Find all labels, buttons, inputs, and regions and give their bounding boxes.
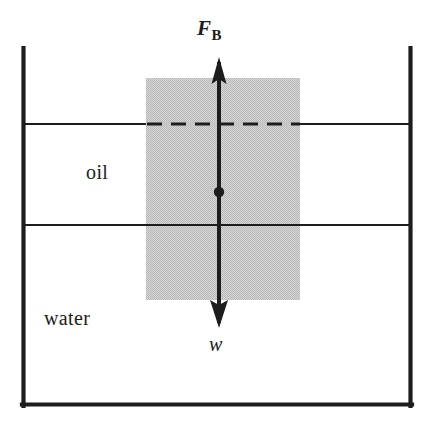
buoyant-force-symbol: F (197, 16, 211, 40)
weight-label: w (209, 334, 222, 354)
oil-layer-label: oil (86, 162, 108, 182)
diagram-canvas (0, 0, 433, 433)
buoyancy-diagram: FB oil water w (0, 0, 433, 433)
buoyant-force-subscript: B (211, 27, 221, 43)
water-layer-label: water (44, 308, 90, 328)
buoyant-force-label: FB (197, 18, 222, 43)
centroid-dot (214, 187, 224, 197)
